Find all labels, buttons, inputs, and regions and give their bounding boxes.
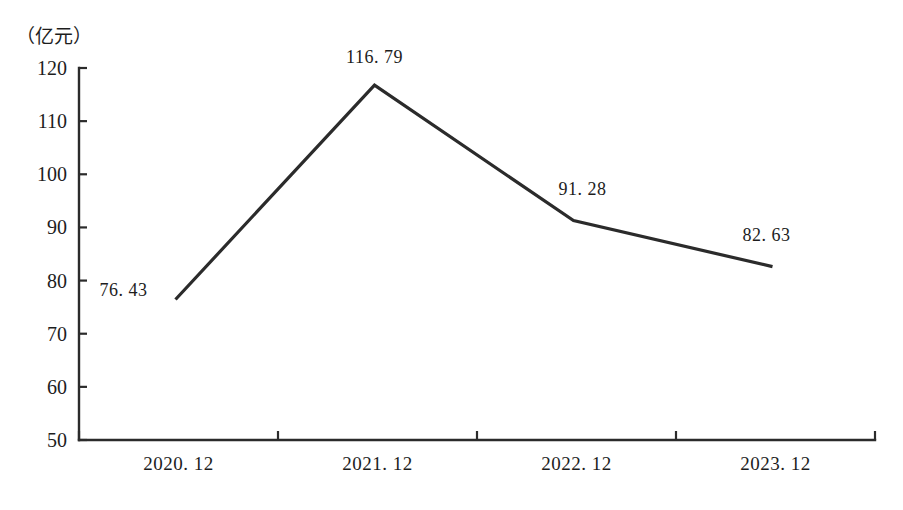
data-point-label: 91. 28 (559, 179, 607, 199)
x-tick-label: 2022. 12 (541, 453, 612, 474)
y-tick-label: 70 (47, 323, 67, 345)
data-point-label: 76. 43 (100, 280, 148, 300)
y-tick-label: 110 (38, 110, 67, 132)
data-point-label: 116. 79 (346, 47, 403, 67)
chart-canvas: （亿元） 5060708090100110120 2020. 122021. 1… (0, 0, 903, 510)
line-chart: （亿元） 5060708090100110120 2020. 122021. 1… (0, 0, 903, 510)
y-tick-label: 120 (37, 57, 67, 79)
y-tick-label: 90 (47, 216, 67, 238)
x-tick-label: 2020. 12 (143, 453, 214, 474)
y-tick-label: 80 (47, 270, 67, 292)
y-tick-label: 50 (47, 429, 67, 451)
series-line-path (176, 85, 773, 299)
data-point-label: 82. 63 (743, 225, 791, 245)
y-axis-unit-label: （亿元） (16, 26, 92, 47)
y-tick-label: 100 (37, 163, 67, 185)
data-value-labels: 76. 43116. 7991. 2882. 63 (100, 47, 791, 299)
y-tick-label: 60 (47, 376, 67, 398)
x-axis-ticks (79, 431, 875, 440)
x-tick-label: 2023. 12 (740, 453, 811, 474)
x-axis-tick-labels: 2020. 122021. 122022. 122023. 12 (143, 453, 811, 474)
x-tick-label: 2021. 12 (342, 453, 413, 474)
